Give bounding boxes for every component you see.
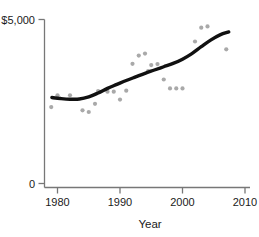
x-tick-label-1980: 1980: [45, 196, 69, 208]
chart-container: $5,000 0 1980 1990 2000 2010 Year: [0, 0, 259, 237]
x-tick-label-1990: 1990: [108, 196, 132, 208]
data-point: [168, 86, 172, 90]
data-point: [205, 24, 209, 28]
data-point: [155, 62, 159, 66]
data-point: [199, 26, 203, 30]
data-point: [68, 93, 72, 97]
x-tick-label-2010: 2010: [233, 196, 257, 208]
data-point: [174, 86, 178, 90]
data-point: [87, 110, 91, 114]
data-point: [118, 97, 122, 101]
scatter-plot-svg: $5,000 0 1980 1990 2000 2010 Year: [0, 0, 259, 237]
data-point: [180, 86, 184, 90]
data-point: [149, 63, 153, 67]
x-axis-title: Year: [138, 218, 161, 230]
data-point: [112, 90, 116, 94]
data-point: [80, 108, 84, 112]
y-tick-label-0: 0: [29, 178, 35, 190]
data-point: [124, 89, 128, 93]
data-point: [137, 53, 141, 57]
data-point: [143, 52, 147, 56]
data-point: [130, 62, 134, 66]
data-point: [193, 39, 197, 43]
y-tick-label-5000: $5,000: [1, 14, 35, 26]
data-point: [224, 47, 228, 51]
x-tick-label-2000: 2000: [170, 196, 194, 208]
trend-line: [52, 32, 229, 99]
data-point: [93, 102, 97, 106]
data-point: [49, 105, 53, 109]
data-point: [162, 77, 166, 81]
